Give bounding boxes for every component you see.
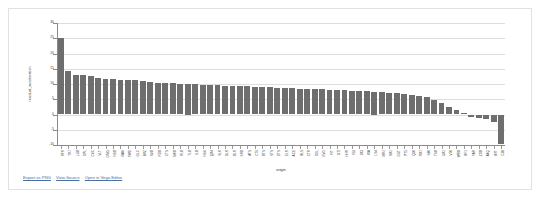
gridline bbox=[57, 23, 505, 24]
bar[interactable] bbox=[118, 80, 124, 115]
bar[interactable] bbox=[58, 38, 64, 115]
x-axis-tick-label: RX7 bbox=[420, 150, 423, 156]
x-axis-tick bbox=[150, 146, 151, 149]
bar[interactable] bbox=[342, 90, 348, 114]
bar[interactable] bbox=[95, 78, 101, 114]
x-axis-tick bbox=[158, 146, 159, 149]
bar[interactable] bbox=[364, 91, 370, 114]
x-axis-tick-label: OUT bbox=[398, 150, 401, 157]
x-axis-tick bbox=[120, 146, 121, 149]
bar[interactable] bbox=[222, 86, 228, 115]
bar[interactable] bbox=[446, 107, 452, 115]
bar[interactable] bbox=[230, 86, 236, 115]
x-axis-tick-label: S40 bbox=[428, 150, 431, 156]
x-axis-tick-label: V70 bbox=[450, 150, 453, 156]
x-axis-tick-label: ATS bbox=[249, 150, 252, 156]
x-axis-tick-label: CTR bbox=[308, 150, 311, 156]
bar[interactable] bbox=[461, 113, 467, 115]
bar[interactable] bbox=[394, 93, 400, 114]
bar[interactable] bbox=[267, 87, 273, 114]
x-axis-tick-label: EVO bbox=[323, 150, 326, 157]
x-axis-tick-label: FIT bbox=[331, 150, 334, 155]
bar[interactable] bbox=[132, 80, 138, 114]
bar[interactable] bbox=[431, 100, 437, 115]
vega-embed-container: -10-5051015202530 RFRTR7LUXDPLCVCVLTOMGN… bbox=[23, 15, 519, 185]
bar[interactable] bbox=[454, 110, 460, 115]
bar[interactable] bbox=[409, 95, 415, 115]
bar[interactable] bbox=[192, 84, 198, 114]
open-in-vega-editor-link[interactable]: Open in Vega Editor bbox=[85, 175, 122, 180]
export-as-png-link[interactable]: Export as PNG bbox=[23, 175, 51, 180]
bar[interactable] bbox=[207, 85, 213, 115]
x-axis-tick bbox=[285, 146, 286, 149]
x-axis-tick bbox=[486, 146, 487, 149]
bar[interactable] bbox=[327, 90, 333, 115]
x-axis-tick bbox=[143, 146, 144, 149]
bar[interactable] bbox=[312, 89, 318, 114]
bar[interactable] bbox=[200, 85, 206, 115]
bar[interactable] bbox=[110, 79, 116, 114]
bar[interactable] bbox=[498, 115, 504, 145]
x-axis-tick-label: GLK bbox=[226, 150, 229, 156]
x-axis-tick-labels: RFRTR7LUXDPLCVCVLTOMGNSXMAVFWDGLCBRZSVXR… bbox=[57, 150, 505, 168]
bar[interactable] bbox=[319, 89, 325, 114]
bar[interactable] bbox=[252, 87, 258, 115]
bar[interactable] bbox=[125, 80, 131, 114]
bar[interactable] bbox=[170, 83, 176, 114]
bar[interactable] bbox=[237, 86, 243, 114]
gridline bbox=[57, 54, 505, 55]
x-axis-tick bbox=[494, 146, 495, 149]
bar[interactable] bbox=[185, 84, 191, 115]
bar[interactable] bbox=[371, 92, 377, 115]
plot-clip bbox=[57, 23, 505, 145]
bar[interactable] bbox=[297, 89, 303, 115]
bar[interactable] bbox=[349, 91, 355, 115]
bar[interactable] bbox=[424, 97, 430, 114]
x-axis-tick-label: GLC bbox=[137, 150, 140, 156]
bar[interactable] bbox=[356, 91, 362, 114]
bar[interactable] bbox=[244, 86, 250, 114]
bar[interactable] bbox=[289, 88, 295, 114]
x-axis-tick bbox=[262, 146, 263, 149]
x-axis-tick bbox=[404, 146, 405, 149]
x-axis-tick-label: IS3 bbox=[353, 150, 356, 155]
bar[interactable] bbox=[73, 75, 79, 115]
x-axis-tick bbox=[419, 146, 420, 149]
bar[interactable] bbox=[439, 103, 445, 115]
x-axis-tick-label: TSX bbox=[435, 150, 438, 156]
bar[interactable] bbox=[140, 81, 146, 114]
bar[interactable] bbox=[476, 115, 482, 119]
x-axis-tick-label: NSX bbox=[114, 150, 117, 156]
bar[interactable] bbox=[88, 76, 94, 115]
bar[interactable] bbox=[401, 94, 407, 115]
bar[interactable] bbox=[177, 84, 183, 115]
bar[interactable] bbox=[147, 82, 153, 114]
bar[interactable] bbox=[274, 88, 280, 115]
x-axis-tick bbox=[434, 146, 435, 149]
bar[interactable] bbox=[65, 71, 71, 115]
bar[interactable] bbox=[162, 83, 168, 114]
bar[interactable] bbox=[386, 93, 392, 115]
bar[interactable] bbox=[483, 115, 489, 120]
bar[interactable] bbox=[416, 96, 422, 115]
bar[interactable] bbox=[468, 115, 474, 118]
bar[interactable] bbox=[80, 75, 86, 115]
bar[interactable] bbox=[379, 92, 385, 115]
bar[interactable] bbox=[103, 79, 109, 114]
bar[interactable] bbox=[259, 87, 265, 114]
bar[interactable] bbox=[334, 90, 340, 114]
bar[interactable] bbox=[282, 88, 288, 115]
bar[interactable] bbox=[155, 83, 161, 115]
x-axis-tick bbox=[232, 146, 233, 149]
x-axis-tick-label: OMG bbox=[107, 150, 110, 157]
bar[interactable] bbox=[215, 85, 221, 114]
x-axis-tick-label: RFR bbox=[62, 150, 65, 156]
gridline bbox=[57, 69, 505, 70]
view-source-link[interactable]: View Source bbox=[56, 175, 79, 180]
x-axis-tick-label: NX2 bbox=[390, 150, 393, 156]
bar[interactable] bbox=[491, 115, 497, 122]
x-axis-tick bbox=[479, 146, 480, 149]
x-axis-tick bbox=[180, 146, 181, 149]
x-axis-tick-label: ZDX bbox=[480, 150, 483, 156]
bar[interactable] bbox=[304, 89, 310, 115]
